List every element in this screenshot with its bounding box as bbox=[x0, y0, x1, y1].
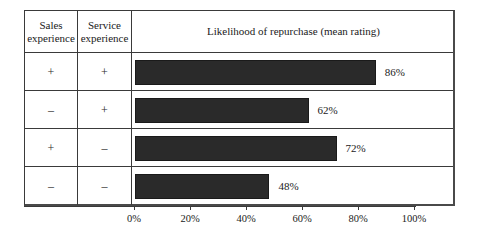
x-axis: 0%20%40%60%80%100% bbox=[134, 206, 414, 236]
column-header-likelihood-of-repurchase: Likelihood of repurchase (mean rating) bbox=[132, 11, 455, 52]
bar-2 bbox=[135, 98, 309, 123]
x-axis-tick bbox=[190, 206, 191, 210]
x-axis-tick-label: 0% bbox=[127, 213, 141, 224]
cell-sales-4: – bbox=[25, 167, 77, 205]
bar-label-1: 86% bbox=[385, 66, 405, 78]
bar-1 bbox=[135, 60, 376, 85]
cell-sales-3: + bbox=[25, 129, 77, 167]
cell-sales-1: + bbox=[25, 53, 77, 91]
bar-row-1: 86% bbox=[132, 53, 455, 91]
bar-row-3: 72% bbox=[132, 129, 455, 167]
bar-4 bbox=[135, 174, 269, 199]
column-header-sales-line2: experience bbox=[27, 32, 75, 44]
x-axis-tick bbox=[134, 206, 135, 210]
cell-service-4: – bbox=[78, 167, 131, 205]
bar-row-2: 62% bbox=[132, 91, 455, 129]
column-header-sales-line1: Sales bbox=[39, 19, 62, 31]
x-axis-tick bbox=[358, 206, 359, 210]
column-header-sales-experience: Sales experience bbox=[25, 11, 77, 52]
cell-service-3: – bbox=[78, 129, 131, 167]
x-axis-tick-label: 80% bbox=[348, 213, 367, 224]
x-axis-tick-label: 100% bbox=[402, 213, 427, 224]
x-axis-tick bbox=[246, 206, 247, 210]
column-header-service-experience: Service experience bbox=[78, 11, 131, 52]
x-axis-tick-label: 20% bbox=[180, 213, 199, 224]
repurchase-table: Sales experience Service experience Like… bbox=[24, 10, 455, 206]
bar-label-3: 72% bbox=[346, 142, 366, 154]
x-axis-tick bbox=[414, 206, 415, 210]
bar-row-4: 48% bbox=[132, 167, 455, 205]
cell-service-2: + bbox=[78, 91, 131, 129]
cell-service-1: + bbox=[78, 53, 131, 91]
bar-3 bbox=[135, 136, 337, 161]
cell-sales-2: – bbox=[25, 91, 77, 129]
x-axis-tick-label: 40% bbox=[236, 213, 255, 224]
bar-label-2: 62% bbox=[318, 104, 338, 116]
x-axis-tick bbox=[302, 206, 303, 210]
x-axis-tick-label: 60% bbox=[292, 213, 311, 224]
bar-label-4: 48% bbox=[278, 180, 298, 192]
figure-container: Sales experience Service experience Like… bbox=[0, 0, 478, 241]
bar-chart-plot-area: 86% 62% 72% 48% bbox=[132, 52, 455, 205]
column-header-service-line1: Service bbox=[88, 19, 121, 31]
column-header-service-line2: experience bbox=[81, 32, 129, 44]
